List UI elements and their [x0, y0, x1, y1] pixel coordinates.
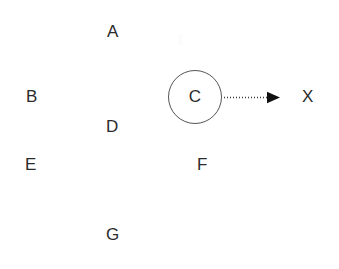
background-artifact	[178, 34, 183, 45]
arrowhead-icon	[267, 92, 280, 104]
node-label-a: A	[107, 23, 118, 40]
node-circle-c[interactable]: C	[168, 70, 222, 124]
node-label-e: E	[25, 156, 36, 173]
edge-c-to-x-dotted-arrow	[222, 88, 282, 108]
node-circle-c-label: C	[169, 71, 221, 123]
node-label-f: F	[197, 156, 207, 173]
node-label-b: B	[26, 88, 37, 105]
node-label-d: D	[106, 118, 118, 135]
diagram-canvas: A B D E F G X C	[0, 0, 339, 269]
node-label-g: G	[106, 226, 119, 243]
node-label-x: X	[302, 88, 313, 105]
